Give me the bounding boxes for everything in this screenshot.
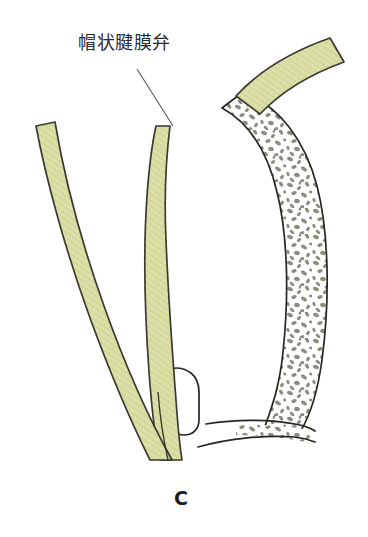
figure-root: 帽状腱膜弁 C [0,0,368,537]
panel-letter: C [174,489,188,508]
callout-label-galeal-flap: 帽状腱膜弁 [78,33,171,53]
anatomy-illustration [0,0,368,537]
caption-strip [0,528,368,537]
